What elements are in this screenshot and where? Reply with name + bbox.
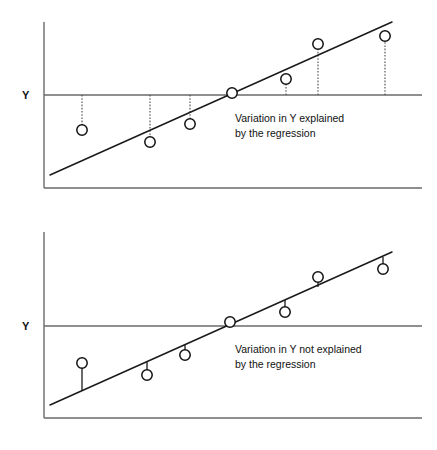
data-point [380,31,390,41]
data-points-top [77,31,390,147]
data-point [180,350,190,360]
data-point [313,39,323,49]
annotation-line-1-bottom: Variation in Y not explained [235,343,362,355]
unexplained-variation-chart: Y Variation in Y not explained b [0,225,437,450]
data-point [77,125,87,135]
axes-group-top [44,22,422,188]
chart-panel-unexplained: Y Variation in Y not explained b [0,225,437,450]
annotation-line-2-top: by the regression [235,127,316,139]
regression-variation-figure: Y Variation in Y explained by th [0,0,437,450]
annotation-line-1-top: Variation in Y explained [235,112,344,124]
data-point [227,88,237,98]
chart-panel-explained: Y Variation in Y explained by th [0,0,437,225]
annotation-line-2-bottom: by the regression [235,358,316,370]
explained-variation-chart: Y Variation in Y explained by th [0,0,437,225]
data-point [378,264,388,274]
data-point [281,74,291,84]
data-points-bottom [77,264,388,380]
data-point [280,307,290,317]
y-axis-label-top: Y [22,89,30,101]
regression-line-top [50,22,392,175]
data-point [77,358,87,368]
y-axis-label-bottom: Y [22,320,30,332]
data-point [313,272,323,282]
data-point [142,370,152,380]
data-point [185,119,195,129]
data-point [225,317,235,327]
data-point [145,137,155,147]
regression-line-bottom [50,252,392,405]
